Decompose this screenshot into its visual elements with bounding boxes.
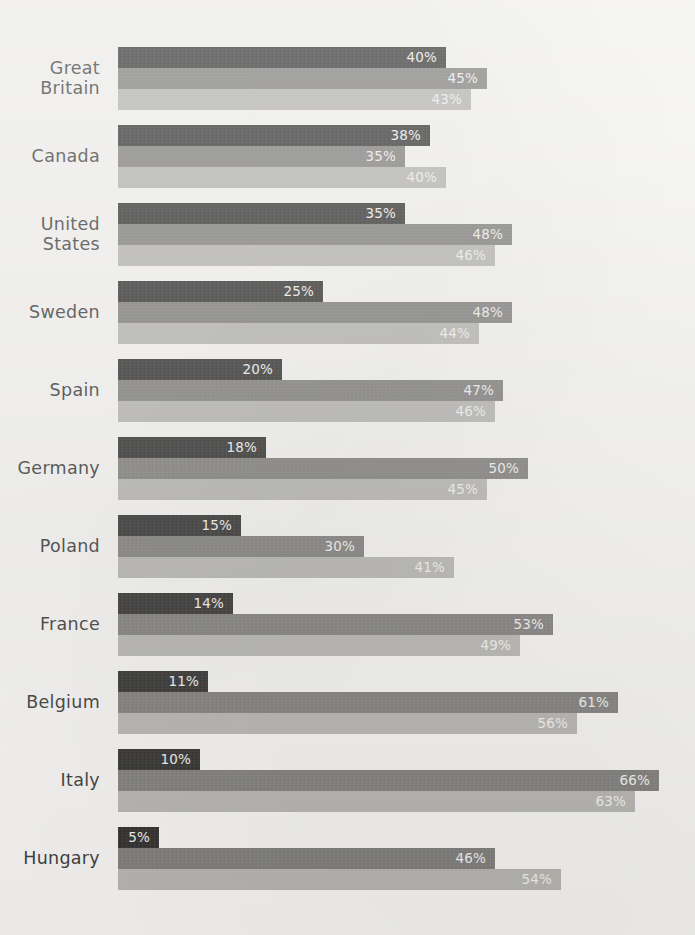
bar-value-label: 53%	[118, 614, 553, 635]
category-label-line: Germany	[0, 458, 100, 478]
bar-group: Germany18%50%45%	[0, 437, 695, 500]
bar-value-label: 61%	[118, 692, 618, 713]
top-edge-print-artifact	[559, 0, 679, 12]
category-label-line: Great	[0, 58, 100, 78]
bar-value-label: 25%	[118, 281, 323, 302]
bar-value-label: 46%	[118, 848, 495, 869]
bar-value-label: 41%	[118, 557, 454, 578]
bar-value-label: 66%	[118, 770, 659, 791]
bar-group: Italy10%66%63%	[0, 749, 695, 812]
category-label-line: Italy	[0, 770, 100, 790]
bar-value-label: 50%	[118, 458, 528, 479]
bar-group: Poland15%30%41%	[0, 515, 695, 578]
category-label-line: Spain	[0, 380, 100, 400]
bar-group: Sweden25%48%44%	[0, 281, 695, 344]
bar-value-label: 48%	[118, 224, 512, 245]
bar-value-label: 63%	[118, 791, 635, 812]
bar-group: France14%53%49%	[0, 593, 695, 656]
bar-value-label: 56%	[118, 713, 577, 734]
bar-group: UnitedStates35%48%46%	[0, 203, 695, 266]
category-label: UnitedStates	[0, 214, 100, 254]
bar-value-label: 5%	[118, 827, 159, 848]
bar-group: Spain20%47%46%	[0, 359, 695, 422]
bar-value-label: 45%	[118, 68, 487, 89]
bar-value-label: 47%	[118, 380, 503, 401]
bar-value-label: 44%	[118, 323, 479, 344]
category-label-line: France	[0, 614, 100, 634]
category-label: France	[0, 614, 100, 634]
bar-value-label: 20%	[118, 359, 282, 380]
bar-value-label: 40%	[118, 167, 446, 188]
category-label: Germany	[0, 458, 100, 478]
bar-value-label: 35%	[118, 146, 405, 167]
bar-group: Canada38%35%40%	[0, 125, 695, 188]
bar-value-label: 35%	[118, 203, 405, 224]
category-label: GreatBritain	[0, 58, 100, 98]
category-label: Poland	[0, 536, 100, 556]
category-label: Spain	[0, 380, 100, 400]
bar-value-label: 46%	[118, 401, 495, 422]
bar-value-label: 10%	[118, 749, 200, 770]
category-label-line: United	[0, 214, 100, 234]
bar-value-label: 45%	[118, 479, 487, 500]
bar-value-label: 40%	[118, 47, 446, 68]
category-label: Belgium	[0, 692, 100, 712]
category-label-line: Canada	[0, 146, 100, 166]
bar-chart: GreatBritain40%45%43%Canada38%35%40%Unit…	[0, 0, 695, 935]
category-label: Canada	[0, 146, 100, 166]
category-label: Hungary	[0, 848, 100, 868]
category-label: Sweden	[0, 302, 100, 322]
bar-value-label: 46%	[118, 245, 495, 266]
bar-value-label: 15%	[118, 515, 241, 536]
bar-group: Belgium11%61%56%	[0, 671, 695, 734]
category-label-line: Poland	[0, 536, 100, 556]
bar-value-label: 11%	[118, 671, 208, 692]
bar-value-label: 49%	[118, 635, 520, 656]
bar-group: Hungary5%46%54%	[0, 827, 695, 890]
bar-value-label: 54%	[118, 869, 561, 890]
bar-value-label: 30%	[118, 536, 364, 557]
category-label-line: Hungary	[0, 848, 100, 868]
bar-value-label: 43%	[118, 89, 471, 110]
bar-group: GreatBritain40%45%43%	[0, 47, 695, 110]
category-label-line: Belgium	[0, 692, 100, 712]
bar-value-label: 38%	[118, 125, 430, 146]
category-label-line: Sweden	[0, 302, 100, 322]
category-label-line: Britain	[0, 78, 100, 98]
category-label-line: States	[0, 234, 100, 254]
bar-value-label: 18%	[118, 437, 266, 458]
category-label: Italy	[0, 770, 100, 790]
bar-value-label: 48%	[118, 302, 512, 323]
bar-value-label: 14%	[118, 593, 233, 614]
